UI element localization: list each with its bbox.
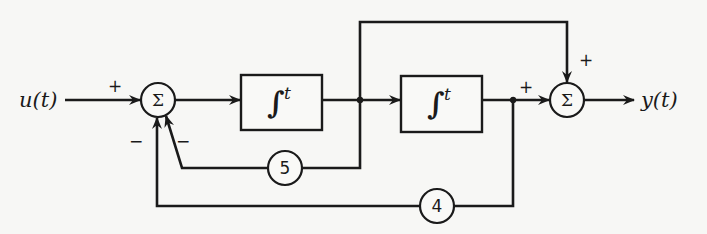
output-label-y: y(t): [640, 88, 678, 112]
summing-junction-1: Σ: [141, 83, 175, 117]
sum2-left-plus-sign: +: [519, 77, 533, 97]
sum1-minus-sign-gain5: −: [176, 131, 190, 151]
gain-block-5: 5: [268, 151, 302, 185]
summing-junction-2: Σ: [550, 83, 584, 117]
integral-symbol-1: ∫: [267, 85, 284, 120]
sum2-top-plus-sign: +: [579, 50, 593, 70]
integrator-block-2: ∫ t: [401, 76, 482, 132]
integral-superscript-2: t: [444, 84, 451, 104]
input-label-u: u(t): [19, 88, 57, 112]
sum2-sigma: Σ: [561, 90, 573, 110]
block-diagram: u(t) + Σ ∫ t + ∫ t + Σ y(t) 5 −: [0, 0, 707, 234]
integral-symbol-2: ∫: [427, 86, 444, 121]
gain-4-value: 4: [432, 196, 443, 216]
sum1-minus-sign-gain4: −: [129, 131, 143, 151]
gain-5-value: 5: [280, 158, 291, 178]
sum1-sigma: Σ: [152, 90, 164, 110]
integral-superscript-1: t: [284, 83, 291, 103]
integrator-block-1: ∫ t: [241, 75, 322, 130]
gain-block-4: 4: [420, 189, 454, 223]
sum1-plus-sign: +: [108, 76, 122, 96]
